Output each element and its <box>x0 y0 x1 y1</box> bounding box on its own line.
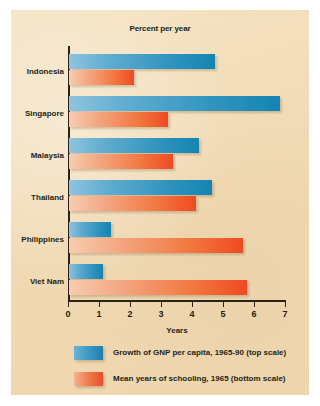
x-tick-label-1: 1 <box>91 309 107 319</box>
bar-philippines-gnp <box>69 222 111 237</box>
bar-viet-nam-schooling <box>69 280 247 295</box>
x-axis-title: Years <box>68 326 286 335</box>
legend-label-gnp: Growth of GNP per capita, 1965-90 (top s… <box>113 348 286 357</box>
legend-swatch-gnp <box>74 346 103 360</box>
bar-philippines-schooling <box>69 238 243 253</box>
x-tick-label-7: 7 <box>277 309 293 319</box>
x-tick-5 <box>223 300 224 307</box>
x-tick-2 <box>130 300 131 307</box>
category-label-indonesia: Indonesia <box>0 67 64 76</box>
legend-label-school: Mean years of schooling, 1965 (bottom sc… <box>113 374 286 383</box>
figure: Percent per year 01234567 IndonesiaSinga… <box>0 0 320 406</box>
legend-swatch-school <box>74 372 103 386</box>
bar-indonesia-schooling <box>69 70 134 85</box>
bar-viet-nam-gnp <box>69 264 103 279</box>
x-tick-4 <box>192 300 193 307</box>
category-label-malaysia: Malaysia <box>0 151 64 160</box>
x-tick-label-0: 0 <box>60 309 76 319</box>
x-tick-label-5: 5 <box>215 309 231 319</box>
bar-singapore-schooling <box>69 112 168 127</box>
bar-malaysia-schooling <box>69 154 173 169</box>
category-label-viet-nam: Viet Nam <box>0 277 64 286</box>
x-tick-label-2: 2 <box>122 309 138 319</box>
x-tick-3 <box>161 300 162 307</box>
category-label-thailand: Thailand <box>0 193 64 202</box>
plot-area: 01234567 IndonesiaSingaporeMalaysiaThail… <box>11 10 309 395</box>
chart-panel: Percent per year 01234567 IndonesiaSinga… <box>11 10 309 395</box>
bar-singapore-gnp <box>69 96 280 111</box>
bar-thailand-gnp <box>69 180 212 195</box>
category-label-philippines: Philippines <box>0 235 64 244</box>
x-tick-label-6: 6 <box>246 309 262 319</box>
x-tick-label-4: 4 <box>184 309 200 319</box>
x-tick-7 <box>285 300 286 307</box>
x-tick-1 <box>99 300 100 307</box>
bar-indonesia-gnp <box>69 54 215 69</box>
category-label-singapore: Singapore <box>0 109 64 118</box>
x-tick-6 <box>254 300 255 307</box>
x-tick-label-3: 3 <box>153 309 169 319</box>
bar-malaysia-gnp <box>69 138 199 153</box>
bar-thailand-schooling <box>69 196 196 211</box>
x-tick-0 <box>68 300 69 307</box>
